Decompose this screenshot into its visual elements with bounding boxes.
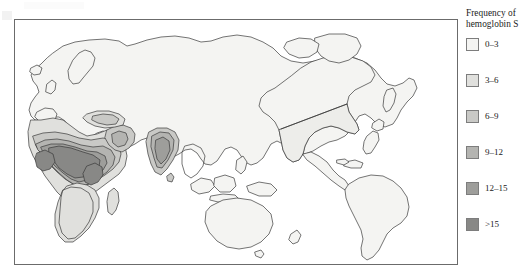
legend-swatch-0-3 <box>466 38 479 51</box>
world-map <box>15 20 457 264</box>
legend-swatch-gt-15 <box>466 218 479 231</box>
scan-artifact-corner <box>2 11 12 20</box>
region-tasmania <box>255 250 264 258</box>
legend-label-gt-15: >15 <box>485 218 499 231</box>
map-frame <box>14 19 458 265</box>
region-new-guinea <box>247 182 277 196</box>
region-madagascar <box>107 188 119 215</box>
legend-swatch-12-15 <box>466 182 479 195</box>
legend-items: 0–3 3–6 6–9 9–12 12–15 >15 <box>466 38 528 254</box>
legend-label-3-6: 3–6 <box>485 74 499 87</box>
region-south-america <box>345 175 409 260</box>
region-sumatra <box>191 178 215 194</box>
region-australia <box>205 198 273 249</box>
hemoglobin-s-frequency-map-figure: Frequency of hemoglobin S 0–3 3–6 6–9 9–… <box>0 0 528 275</box>
legend-title: Frequency of hemoglobin S <box>466 8 528 30</box>
legend-item-6-9: 6–9 <box>466 110 528 146</box>
legend-swatch-9-12 <box>466 146 479 159</box>
region-borneo <box>214 175 236 192</box>
legend-swatch-3-6 <box>466 74 479 87</box>
legend: Frequency of hemoglobin S 0–3 3–6 6–9 9–… <box>466 8 528 254</box>
region-japan <box>363 131 379 154</box>
legend-label-12-15: 12–15 <box>485 182 508 195</box>
legend-title-line2: hemoglobin S <box>466 19 528 30</box>
legend-swatch-6-9 <box>466 110 479 123</box>
legend-item-9-12: 9–12 <box>466 146 528 182</box>
legend-label-0-3: 0–3 <box>485 38 499 51</box>
scan-artifact-top <box>24 2 84 9</box>
legend-item-gt-15: >15 <box>466 218 528 254</box>
legend-item-12-15: 12–15 <box>466 182 528 218</box>
legend-title-line1: Frequency of <box>466 8 528 19</box>
legend-label-9-12: 9–12 <box>485 146 503 159</box>
legend-item-3-6: 3–6 <box>466 74 528 110</box>
legend-label-6-9: 6–9 <box>485 110 499 123</box>
region-central-america <box>303 152 349 190</box>
region-canada-arctic <box>284 38 319 58</box>
region-new-zealand <box>289 230 301 244</box>
region-sri-lanka <box>167 173 174 182</box>
legend-item-0-3: 0–3 <box>466 38 528 74</box>
